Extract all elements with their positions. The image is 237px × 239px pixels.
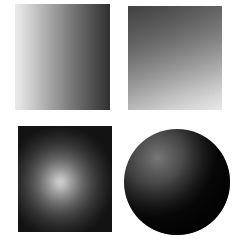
panel-shaded-sphere <box>124 129 230 235</box>
diagonal-gradient-overlay <box>128 6 222 110</box>
sphere-terminator-shading <box>124 129 230 235</box>
panel-radial-gradient <box>18 126 112 232</box>
gradient-figure <box>0 0 237 239</box>
panel-linear-diagonal <box>128 6 222 110</box>
panel-linear-horizontal <box>15 4 110 110</box>
